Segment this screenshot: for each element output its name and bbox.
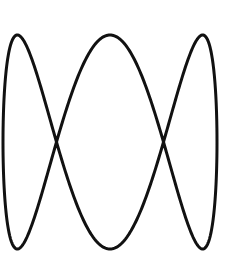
- lissajous-figure: [0, 0, 230, 279]
